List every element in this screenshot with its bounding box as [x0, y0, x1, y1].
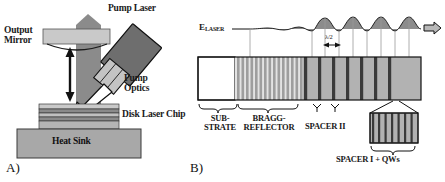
- label-half-lambda: λ/2: [325, 34, 333, 41]
- label-spacer-ii: SPACER II: [305, 122, 345, 131]
- panel-tag-a: A): [6, 160, 20, 176]
- panel-tag-b: B): [190, 160, 203, 176]
- label-disk-laser-chip: Disk Laser Chip: [122, 110, 185, 120]
- layer-substrate: [198, 57, 235, 100]
- output-beam-arrow: [424, 22, 441, 34]
- output-mirror: [43, 29, 110, 44]
- label-e-laser: ELASER: [199, 22, 224, 32]
- brace-substrate: [199, 104, 237, 113]
- inset-spacer-i-qws: [370, 113, 418, 143]
- disk-laser-chip: [39, 104, 119, 129]
- label-pump-optics: Pump Optics: [124, 74, 149, 94]
- layer-bragg-reflector: [235, 57, 303, 100]
- inset-callout-lines: [370, 101, 418, 113]
- layer-spacer-qw-region: [303, 57, 421, 100]
- spacer-ii-pointers: [313, 104, 339, 112]
- e-laser-standing-wave: [250, 17, 421, 31]
- label-spacer-i-qws: SPACER I + QWs: [336, 155, 400, 164]
- figure-root: Output Mirror Pump Laser Pump Optics Dis…: [0, 0, 445, 182]
- label-output-mirror: Output Mirror: [4, 26, 32, 46]
- brace-bragg-reflector: [238, 104, 298, 113]
- label-pump-laser: Pump Laser: [108, 4, 156, 14]
- label-e-laser-subscript: LASER: [205, 26, 224, 32]
- half-lambda-arrow: [323, 43, 341, 48]
- cavity-double-arrow: [66, 47, 75, 102]
- label-heat-sink: Heat Sink: [52, 137, 91, 147]
- label-substrate: SUB- STRATE: [200, 114, 240, 132]
- panel-b-graphics: [198, 17, 441, 155]
- label-bragg-reflector: BRAGG- REFLECTOR: [237, 114, 301, 132]
